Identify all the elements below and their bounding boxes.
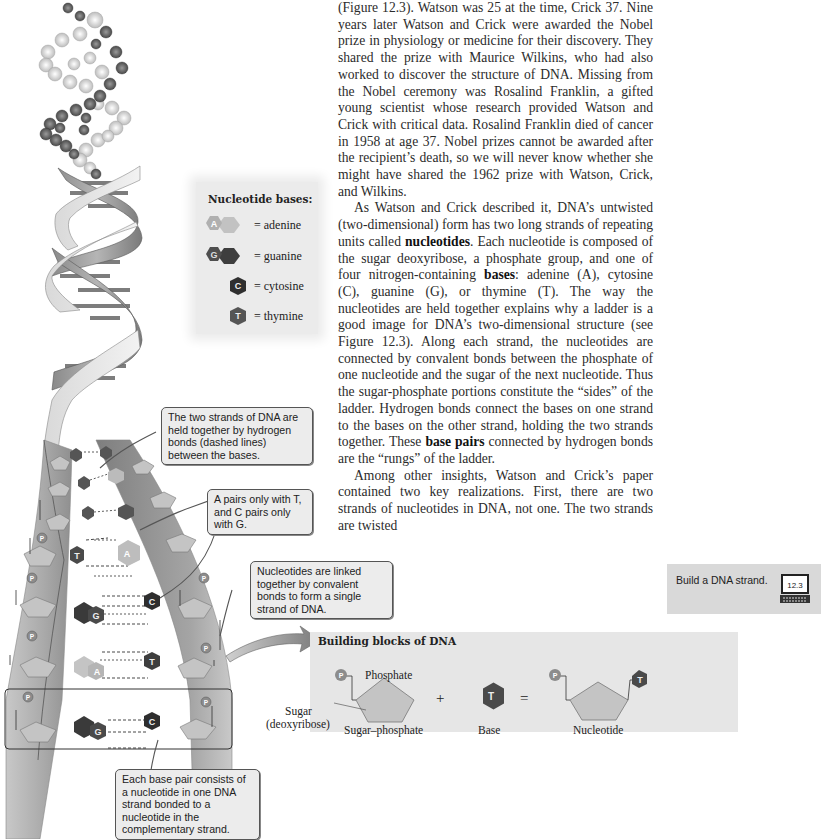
callout-hydrogen-bonds: The two strands of DNA are held together… <box>161 407 313 465</box>
phosphate-label: P <box>26 694 31 701</box>
curved-arrow-icon <box>226 626 320 662</box>
nucleotide-bases-legend: Nucleotide bases: A = adenine G = guanin… <box>196 182 318 334</box>
base-letter: A <box>211 219 218 229</box>
legend-title: Nucleotide bases: <box>208 193 312 205</box>
helix-ribbon <box>44 166 142 452</box>
legend-label: = guanine <box>254 249 302 264</box>
base-label: T <box>74 551 80 561</box>
base-letter: T <box>235 311 241 321</box>
base-pair-rungs: T A G C A T G C <box>70 538 160 748</box>
guanine-icon: G <box>204 245 254 267</box>
base-label: A <box>94 667 101 677</box>
legend-item-thymine: T = thymine <box>196 305 318 327</box>
phosphate-label: P <box>30 633 35 640</box>
activity-build-dna-strand[interactable]: Build a DNA strand. 12.3 <box>667 564 821 614</box>
plus-sign: + <box>436 690 444 707</box>
adenine-icon: A <box>204 214 254 236</box>
nucleotide-label: Nucleotide <box>573 724 623 736</box>
phosphate-label: P <box>204 645 209 652</box>
sugar-phosphate-label: Sugar–phosphate <box>344 724 423 736</box>
legend-item-cytosine: C = cytosine <box>196 275 318 297</box>
thymine-icon: T <box>204 305 254 327</box>
sugar-label: Sugar <box>285 705 312 717</box>
building-blocks-panel: Building blocks of DNA <box>310 632 738 732</box>
phosphate-label-text: Phosphate <box>365 669 412 681</box>
phosphate-label: P <box>204 699 209 706</box>
deoxyribose-label: (deoxyribose) <box>266 718 330 730</box>
activity-label: Build a DNA strand. <box>676 574 768 586</box>
callout-covalent-bonds: Nucleotides are linked together by conva… <box>250 561 393 619</box>
legend-item-guanine: G = guanine <box>196 245 318 267</box>
base-label: G <box>94 727 101 737</box>
base-label-text: Base <box>478 724 500 736</box>
legend-label: = thymine <box>254 309 303 324</box>
building-blocks-title: Building blocks of DNA <box>318 635 456 647</box>
space-filling-model <box>39 3 131 179</box>
cytosine-icon: C <box>204 275 254 297</box>
base-letter: G <box>210 250 217 260</box>
phosphate-label: P <box>202 575 207 582</box>
base-label: A <box>124 549 131 559</box>
phosphate-label: P <box>30 575 35 582</box>
base-label: T <box>149 657 155 667</box>
callout-base-pair: Each base pair consists of a nucleotide … <box>115 769 260 840</box>
base-letter: C <box>235 281 242 291</box>
base-label: G <box>92 611 99 621</box>
base-label: C <box>149 597 156 607</box>
base-label: C <box>149 717 156 727</box>
activity-number: 12.3 <box>787 581 803 590</box>
legend-label: = adenine <box>254 218 301 233</box>
legend-item-adenine: A = adenine <box>196 214 318 236</box>
computer-icon: 12.3 <box>779 574 811 604</box>
callout-base-pairing: A pairs only with T, and C pairs only wi… <box>207 489 313 535</box>
phosphate-label: P <box>40 535 45 542</box>
legend-label: = cytosine <box>254 279 304 294</box>
equals-sign: = <box>520 690 528 707</box>
